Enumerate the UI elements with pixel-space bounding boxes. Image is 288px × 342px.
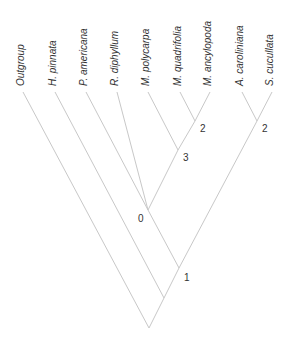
- taxon-label-m_ancylopoda: M. ancylopoda: [202, 21, 213, 86]
- branch-n_mp-to-n_0: [148, 150, 178, 210]
- taxon-label-s_cucullata: S. cucullata: [264, 34, 275, 86]
- branch-a_caroliniana-to-n_a_s: [242, 92, 257, 121]
- branch-n_mq_ma-to-n_mp: [178, 121, 195, 150]
- node-label-n_mp: 3: [183, 152, 189, 163]
- branch-m_ancylopoda-to-n_mq_ma: [195, 92, 210, 121]
- branch-n_0-to-n_1: [148, 210, 179, 268]
- branches: [23, 92, 272, 328]
- branch-n_1-to-n_h: [164, 268, 179, 298]
- taxon-label-m_quadrifolia: M. quadrifolia: [172, 26, 183, 86]
- taxon-label-r_diphyllum: R. diphyllum: [109, 31, 120, 86]
- branch-m_quadrifolia-to-n_mq_ma: [180, 92, 195, 121]
- node-label-n_1: 1: [184, 272, 190, 283]
- branch-p_americana-to-n_0: [86, 92, 148, 210]
- branch-n_a_s-to-n_1: [179, 121, 257, 268]
- branch-s_cucullata-to-n_a_s: [257, 92, 272, 121]
- taxon-label-outgroup: Outgroup: [15, 44, 26, 86]
- taxon-label-m_polycarpa: M. polycarpa: [140, 28, 151, 86]
- branch-m_polycarpa-to-n_mp: [148, 92, 178, 150]
- branch-r_diphyllum-to-n_0: [117, 92, 148, 210]
- branch-outgroup-to-root: [23, 92, 149, 328]
- node-label-n_mq_ma: 2: [200, 123, 206, 134]
- cladogram: OutgroupH. pinnataP. americanaR. diphyll…: [0, 0, 288, 342]
- node-label-n_0: 0: [138, 213, 144, 224]
- taxon-label-a_caroliniana: A. caroliniana: [234, 25, 245, 87]
- taxon-labels: OutgroupH. pinnataP. americanaR. diphyll…: [15, 21, 275, 87]
- node-support-labels: 22301: [138, 123, 268, 283]
- branch-h_pinnata-to-n_h: [55, 92, 164, 298]
- node-label-n_a_s: 2: [262, 123, 268, 134]
- branch-n_h-to-root: [149, 298, 164, 328]
- taxon-label-h_pinnata: H. pinnata: [47, 40, 58, 86]
- taxon-label-p_americana: P. americana: [78, 28, 89, 86]
